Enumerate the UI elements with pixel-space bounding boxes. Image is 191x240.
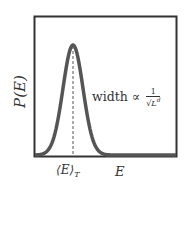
annotation-text: width ∝ xyxy=(92,89,140,104)
fraction-denominator: √Ld xyxy=(146,97,160,108)
fraction: 1 √Ld xyxy=(146,88,160,108)
y-axis-label: P(E) xyxy=(13,75,28,108)
mean-subscript: T xyxy=(74,170,79,179)
exponent-d: d xyxy=(157,96,161,103)
x-axis-label: E xyxy=(115,165,125,178)
mean-symbol: ⟨E⟩ xyxy=(56,163,74,177)
sqrt-L: √L xyxy=(146,99,156,108)
width-annotation: width ∝ 1 √Ld xyxy=(92,88,160,108)
mean-energy-label: ⟨E⟩T xyxy=(56,164,79,179)
